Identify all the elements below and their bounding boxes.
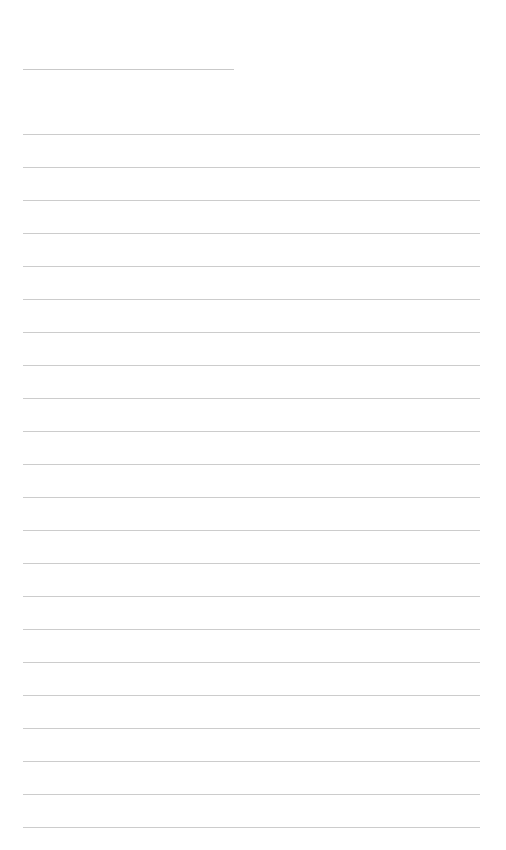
ruled-line: [23, 761, 480, 762]
ruled-line: [23, 431, 480, 432]
ruled-line: [23, 629, 480, 630]
ruled-line: [23, 596, 480, 597]
ruled-line: [23, 365, 480, 366]
lined-page: [0, 0, 506, 850]
ruled-line: [23, 794, 480, 795]
header-line: [23, 69, 234, 70]
ruled-line: [23, 134, 480, 135]
ruled-line: [23, 299, 480, 300]
ruled-line: [23, 530, 480, 531]
ruled-line: [23, 662, 480, 663]
ruled-line: [23, 464, 480, 465]
ruled-line: [23, 233, 480, 234]
ruled-line: [23, 497, 480, 498]
ruled-line: [23, 563, 480, 564]
ruled-line: [23, 827, 480, 828]
ruled-line: [23, 728, 480, 729]
ruled-line: [23, 695, 480, 696]
ruled-line: [23, 200, 480, 201]
ruled-line: [23, 266, 480, 267]
ruled-line: [23, 332, 480, 333]
ruled-line: [23, 167, 480, 168]
ruled-line: [23, 398, 480, 399]
